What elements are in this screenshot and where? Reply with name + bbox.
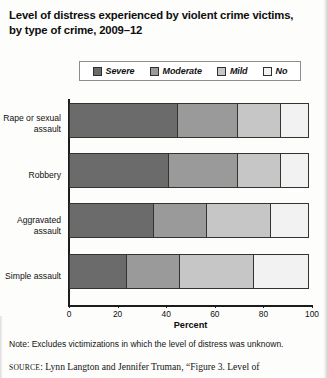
bar-segment-mild bbox=[206, 203, 272, 238]
bar-segment-severe bbox=[69, 103, 178, 138]
bar-row bbox=[69, 203, 312, 238]
x-tick-mark bbox=[215, 305, 216, 308]
figure-page: Level of distress experienced by violent… bbox=[0, 0, 328, 378]
legend-swatch-icon bbox=[150, 67, 159, 76]
bar-segment-mild bbox=[237, 153, 281, 188]
bar-segment-no bbox=[270, 203, 309, 238]
category-axis-labels: Rape or sexual assaultRobberyAggravated … bbox=[0, 99, 64, 305]
legend-item-mild[interactable]: Mild bbox=[217, 66, 248, 76]
chart-legend: SevereModerateMildNo bbox=[79, 61, 301, 81]
category-label: Simple assault bbox=[0, 271, 61, 282]
x-tick-label: 40 bbox=[162, 309, 171, 319]
bar-segment-moderate bbox=[177, 103, 238, 138]
legend-item-no[interactable]: No bbox=[263, 66, 288, 76]
x-tick-label: 0 bbox=[67, 309, 72, 319]
bar-segment-mild bbox=[237, 103, 281, 138]
x-axis-ticks: 020406080100 bbox=[69, 305, 312, 321]
legend-label: Severe bbox=[106, 66, 135, 76]
x-tick-label: 60 bbox=[210, 309, 219, 319]
chart-plot-area bbox=[69, 99, 312, 305]
x-tick-mark bbox=[312, 305, 313, 308]
x-tick-label: 100 bbox=[305, 309, 319, 319]
bar-segment-no bbox=[280, 153, 309, 188]
legend-label: No bbox=[276, 66, 288, 76]
bar-segment-moderate bbox=[168, 153, 238, 188]
category-label: Robbery bbox=[0, 170, 61, 181]
bar-segment-severe bbox=[69, 254, 127, 289]
bar-row bbox=[69, 153, 312, 188]
x-tick-label: 20 bbox=[113, 309, 122, 319]
x-axis-title: Percent bbox=[69, 320, 312, 330]
source-text: : Lynn Langton and Jennifer Truman, “Fig… bbox=[40, 361, 259, 372]
legend-swatch-icon bbox=[263, 67, 272, 76]
bar-segment-moderate bbox=[126, 254, 179, 289]
x-tick-mark bbox=[263, 305, 264, 308]
bar-segment-moderate bbox=[153, 203, 206, 238]
legend-label: Mild bbox=[230, 66, 248, 76]
figure-note: Note: Excludes victimizations in which t… bbox=[9, 339, 321, 350]
bar-segment-no bbox=[280, 103, 309, 138]
x-tick-mark bbox=[166, 305, 167, 308]
category-label: Rape or sexual assault bbox=[0, 113, 61, 134]
x-tick-mark bbox=[69, 305, 70, 308]
page-edge-shadow-left bbox=[0, 316, 3, 378]
stacked-bars bbox=[69, 99, 312, 305]
bar-segment-no bbox=[253, 254, 309, 289]
figure-title: Level of distress experienced by violent… bbox=[9, 8, 309, 37]
x-tick-mark bbox=[118, 305, 119, 308]
legend-item-moderate[interactable]: Moderate bbox=[150, 66, 202, 76]
bar-row bbox=[69, 103, 312, 138]
legend-item-severe[interactable]: Severe bbox=[93, 66, 135, 76]
bar-row bbox=[69, 254, 312, 289]
legend-label: Moderate bbox=[163, 66, 202, 76]
page-edge-shadow bbox=[323, 0, 328, 378]
legend-swatch-icon bbox=[93, 67, 102, 76]
source-prefix: SOURCE bbox=[9, 363, 40, 372]
bar-segment-mild bbox=[179, 254, 254, 289]
legend-swatch-icon bbox=[217, 67, 226, 76]
x-tick-label: 80 bbox=[259, 309, 268, 319]
figure-source: SOURCE: Lynn Langton and Jennifer Truman… bbox=[9, 361, 323, 374]
bar-segment-severe bbox=[69, 203, 154, 238]
bar-segment-severe bbox=[69, 153, 169, 188]
category-label: Aggravated assault bbox=[0, 215, 61, 236]
